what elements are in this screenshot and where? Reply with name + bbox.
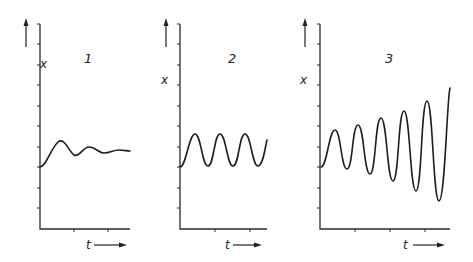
panel-number: 3 bbox=[385, 51, 393, 66]
y-axis-label: x bbox=[160, 73, 169, 87]
x-axis-label: t bbox=[403, 238, 409, 252]
y-axis-label: x bbox=[39, 57, 48, 71]
panel-1-damped: 1xt bbox=[24, 18, 131, 252]
response-curve bbox=[180, 134, 267, 167]
panel-3-growing: 3xt bbox=[299, 18, 450, 252]
panel-2-sustained: 2xt bbox=[160, 18, 267, 252]
arrowhead-up-icon bbox=[303, 18, 308, 26]
arrowhead-up-icon bbox=[164, 18, 169, 26]
arrowhead-right-icon bbox=[254, 243, 262, 248]
arrowhead-right-icon bbox=[119, 243, 127, 248]
panel-number: 2 bbox=[228, 51, 236, 66]
y-axis-label: x bbox=[299, 73, 308, 87]
arrowhead-up-icon bbox=[24, 18, 29, 26]
panel-number: 1 bbox=[84, 51, 92, 66]
response-curve bbox=[40, 141, 130, 167]
x-axis-label: t bbox=[225, 238, 231, 252]
x-axis-label: t bbox=[86, 238, 92, 252]
oscillation-diagram: 1xt 2xt 3xt bbox=[0, 0, 473, 262]
axes bbox=[180, 24, 267, 229]
arrowhead-right-icon bbox=[437, 243, 445, 248]
response-curve bbox=[321, 88, 450, 201]
